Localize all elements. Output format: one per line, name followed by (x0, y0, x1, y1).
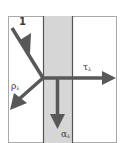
transmitted-subscript: λ (88, 66, 91, 72)
transmitted-label: τλ (83, 63, 91, 72)
absorbed-label: αλ (61, 130, 70, 139)
reflected-label: ρλ (11, 82, 19, 91)
incident-label: 1 (19, 17, 26, 27)
reflected-subscript: λ (16, 85, 19, 91)
absorbed-subscript: λ (67, 133, 70, 139)
